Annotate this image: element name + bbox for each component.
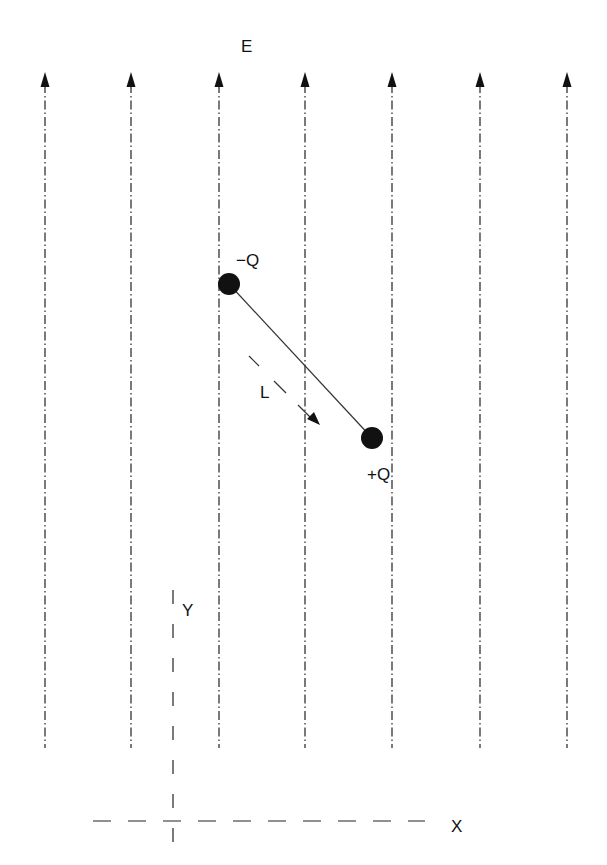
arrow-up-icon bbox=[41, 72, 50, 87]
positive-charge-label: +Q bbox=[367, 466, 390, 483]
separation-label: L bbox=[260, 384, 269, 401]
arrow-up-icon bbox=[127, 72, 136, 87]
dipole-diagram bbox=[0, 0, 607, 865]
y-axis-label: Y bbox=[182, 602, 193, 619]
negative-charge-label: −Q bbox=[236, 252, 259, 269]
positive-charge bbox=[361, 427, 383, 449]
arrow-up-icon bbox=[388, 72, 397, 87]
field-label: E bbox=[241, 38, 252, 55]
electric-field-lines bbox=[45, 84, 567, 748]
arrow-up-icon bbox=[301, 72, 310, 87]
arrow-up-icon bbox=[215, 72, 224, 87]
arrow-up-icon bbox=[563, 72, 572, 87]
x-axis-label: X bbox=[451, 818, 462, 835]
negative-charge bbox=[218, 273, 240, 295]
arrow-up-icon bbox=[476, 72, 485, 87]
field-arrowheads bbox=[41, 72, 572, 87]
dipole-rod bbox=[229, 284, 372, 438]
